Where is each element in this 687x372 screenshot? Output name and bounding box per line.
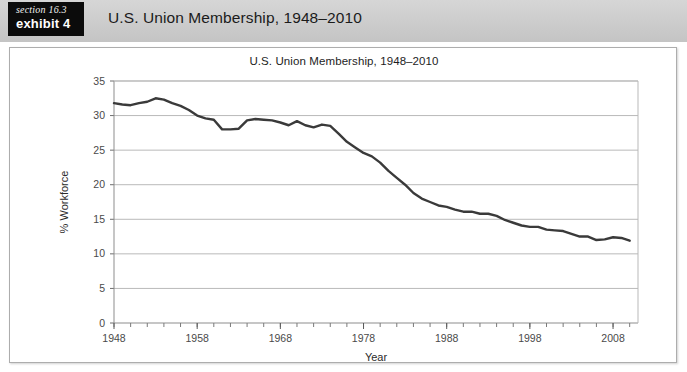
- x-tick-label: 1988: [435, 332, 459, 344]
- exhibit-label: exhibit 4: [16, 16, 80, 31]
- y-tick-label: 20: [93, 178, 105, 190]
- y-tick-label: 0: [99, 317, 105, 329]
- x-tick-label: 1948: [102, 332, 126, 344]
- exhibit-header-band: section 16.3 exhibit 4 U.S. Union Member…: [0, 0, 687, 42]
- y-tick-label: 10: [93, 247, 105, 259]
- x-tick-label: 1968: [269, 332, 293, 344]
- x-tick-label: 1998: [518, 332, 542, 344]
- exhibit-title: U.S. Union Membership, 1948–2010: [108, 9, 362, 27]
- x-axis-title: Year: [365, 351, 388, 363]
- y-axis-title: % Workforce: [58, 171, 70, 234]
- y-tick-label: 15: [93, 213, 105, 225]
- x-tick-label: 1978: [352, 332, 376, 344]
- y-tick-label: 5: [99, 282, 105, 294]
- section-label: section 16.3: [16, 4, 80, 16]
- y-tick-label: 30: [93, 109, 105, 121]
- x-tick-label: 2008: [601, 332, 625, 344]
- line-chart: 0510152025303519481958196819781988199820…: [10, 48, 678, 364]
- page-root: section 16.3 exhibit 4 U.S. Union Member…: [0, 0, 687, 372]
- exhibit-tag: section 16.3 exhibit 4: [8, 2, 84, 36]
- figure-frame: U.S. Union Membership, 1948–2010 0510152…: [9, 47, 677, 363]
- y-tick-label: 25: [93, 144, 105, 156]
- x-tick-label: 1958: [185, 332, 209, 344]
- y-tick-label: 35: [93, 75, 105, 87]
